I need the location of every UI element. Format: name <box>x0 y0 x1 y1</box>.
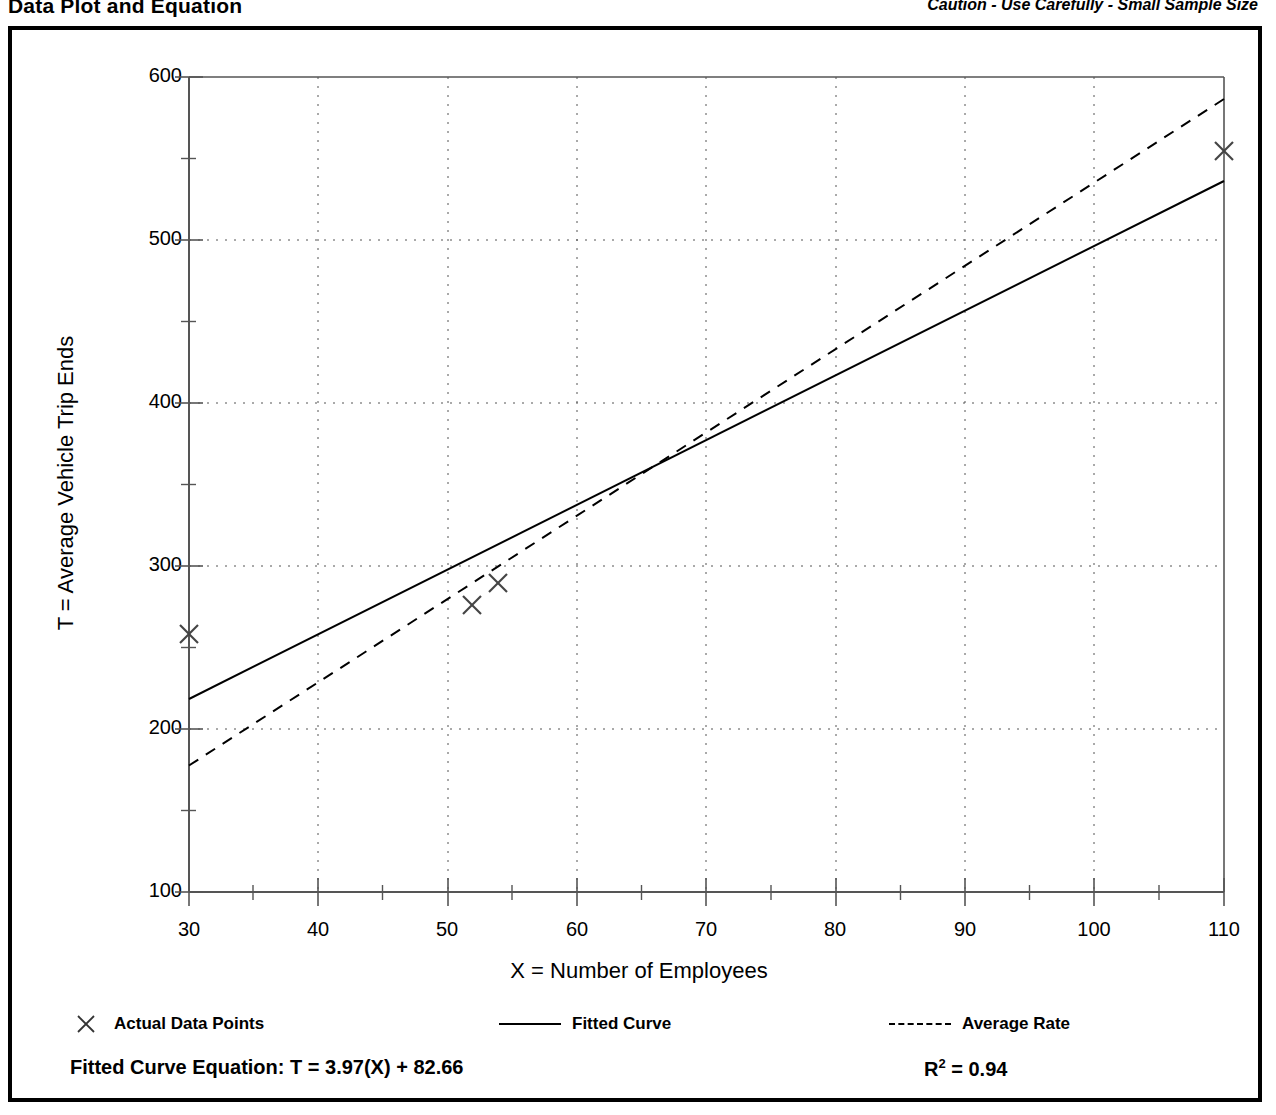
chart-panel: T = Average Vehicle Trip Ends X = Number… <box>8 26 1262 1102</box>
r-squared-rest: = 0.94 <box>946 1058 1008 1080</box>
caution-note: Caution - Use Carefully - Small Sample S… <box>927 0 1258 14</box>
legend-label: Average Rate <box>962 1014 1070 1034</box>
plot-canvas <box>12 30 1266 950</box>
y-gridlines <box>189 240 1224 729</box>
r-squared-exponent: 2 <box>938 1056 945 1071</box>
plot-area: T = Average Vehicle Trip Ends X = Number… <box>12 30 1266 1106</box>
legend-item-average-rate: Average Rate <box>888 1004 1070 1044</box>
data-point-marker <box>489 574 507 592</box>
dashed-line-icon <box>888 1023 952 1025</box>
legend-label: Actual Data Points <box>114 1014 264 1034</box>
legend-item-actual-data-points: Actual Data Points <box>68 1004 264 1044</box>
page-title: Data Plot and Equation <box>8 0 242 18</box>
average-rate-line <box>189 99 1224 766</box>
r-squared-base: R <box>924 1058 938 1080</box>
x-gridlines <box>318 77 1094 892</box>
equation-row: Fitted Curve Equation: T = 3.97(X) + 82.… <box>12 1052 1266 1092</box>
x-marker-icon <box>68 1014 104 1034</box>
solid-line-icon <box>498 1023 562 1025</box>
chart-legend: Actual Data Points Fitted Curve Average … <box>12 1004 1266 1044</box>
data-point-marker <box>463 596 481 614</box>
x-axis-title: X = Number of Employees <box>12 958 1266 984</box>
legend-item-fitted-curve: Fitted Curve <box>498 1004 671 1044</box>
fitted-curve-equation: Fitted Curve Equation: T = 3.97(X) + 82.… <box>70 1056 463 1079</box>
page-header: Data Plot and Equation Caution - Use Car… <box>0 0 1276 22</box>
legend-label: Fitted Curve <box>572 1014 671 1034</box>
r-squared-value: R2 = 0.94 <box>924 1056 1007 1081</box>
